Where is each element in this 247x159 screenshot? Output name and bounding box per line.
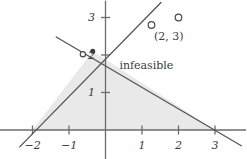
point-coord-label: (2, 3) [154,31,184,42]
open-point-vertex [80,52,85,57]
open-point-left [148,22,155,29]
figure-container: −2−1123123infeasible(2, 3) [0,0,247,159]
y-tick-label-2: 3 [88,12,95,23]
y-tick-label-0: 1 [88,87,95,98]
open-point-right [175,14,182,21]
x-tick-label-0: −2 [25,140,41,151]
y-tick-label-1: 2 [88,50,95,61]
x-tick-label-3: 2 [175,140,182,151]
x-tick-label-4: 3 [212,140,219,151]
plot-canvas [0,0,247,159]
x-tick-label-2: 1 [139,140,146,151]
infeasible-label: infeasible [119,60,173,71]
x-tick-label-1: −1 [61,140,77,151]
